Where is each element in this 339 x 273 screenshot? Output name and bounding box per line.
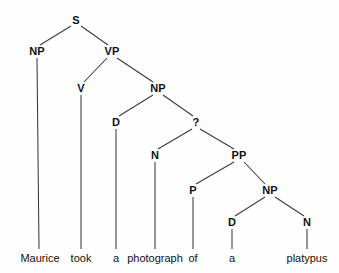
tree-edge-s-to-np1 [40, 26, 71, 45]
edges-group [37, 26, 307, 249]
tree-node-v: V [77, 83, 84, 94]
tree-node-d2: D [228, 217, 236, 228]
tree-edge-pp-to-p [196, 162, 234, 184]
tree-edge-vp-to-np2 [117, 58, 153, 82]
tree-node-np3: NP [262, 185, 277, 196]
tree-edge-np2-to-d1 [119, 95, 153, 116]
tree-node-qmark: ? [193, 117, 200, 128]
tree-edges-layer [0, 0, 339, 273]
tree-leaf-photograph: photograph [127, 253, 183, 264]
tree-edge-pp-to-np3 [244, 162, 265, 184]
tree-leaf-of: of [188, 253, 197, 264]
tree-leaf-a1: a [113, 253, 119, 264]
tree-node-pp: PP [232, 150, 247, 161]
tree-edge-s-to-vp [81, 26, 108, 45]
tree-edge-np1-to-w-maurice [37, 58, 39, 249]
tree-edge-np3-to-d2 [235, 197, 265, 216]
tree-leaf-a2: a [229, 253, 235, 264]
tree-edge-qmark-to-pp [200, 129, 234, 149]
tree-node-np2: NP [150, 83, 165, 94]
tree-node-p: P [189, 185, 196, 196]
tree-leaf-took: took [71, 253, 92, 264]
tree-edge-np2-to-qmark [163, 95, 193, 116]
tree-node-n1: N [151, 150, 159, 161]
tree-leaf-platypus: platypus [287, 253, 328, 264]
tree-node-s: S [72, 15, 79, 26]
tree-edge-qmark-to-n1 [158, 129, 192, 149]
tree-edge-vp-to-v [84, 58, 107, 82]
tree-node-np1: NP [29, 46, 44, 57]
syntax-tree-diagram: SNPVPVNPD?NPPPNPDN Mauricetookaphotograp… [0, 0, 339, 273]
tree-edge-np3-to-n2 [275, 197, 304, 216]
tree-node-n2: N [303, 217, 311, 228]
tree-node-vp: VP [105, 46, 120, 57]
tree-node-d1: D [112, 117, 120, 128]
tree-leaf-maurice: Maurice [20, 253, 59, 264]
